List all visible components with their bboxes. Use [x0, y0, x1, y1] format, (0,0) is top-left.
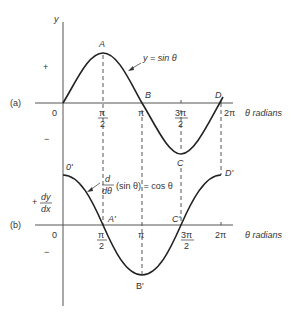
equation-a: y = sin θ — [142, 53, 177, 63]
svg-text:3π: 3π — [175, 108, 186, 118]
svg-text:dx: dx — [41, 204, 51, 214]
panel-b-label: (b) — [10, 220, 21, 230]
svg-text:2: 2 — [184, 241, 189, 251]
svg-text:2π: 2π — [215, 230, 226, 240]
point-B-prime: B' — [136, 281, 144, 291]
svg-text:2: 2 — [100, 119, 105, 129]
origin-b: 0 — [52, 230, 57, 240]
svg-text:2: 2 — [178, 119, 183, 129]
point-O-prime: 0' — [66, 162, 73, 172]
sine-derivative-diagram: y (a) + − 0 π 2 π 3π 2 2π θ radians A B … — [0, 0, 295, 318]
minus-sign-a: − — [44, 134, 49, 144]
equation-b: (sin θ) = cos θ — [116, 181, 173, 191]
x-axis-label-b: θ radians — [245, 230, 282, 240]
svg-text:dθ: dθ — [102, 186, 112, 196]
svg-text:π: π — [98, 230, 104, 240]
point-B: B — [145, 90, 151, 100]
minus-sign-b: − — [44, 247, 49, 257]
origin-a: 0 — [52, 108, 57, 118]
svg-text:π: π — [99, 108, 105, 118]
y-axis-label: y — [53, 14, 59, 24]
svg-text:π: π — [138, 108, 144, 118]
point-C: C — [177, 158, 184, 168]
svg-text:3π: 3π — [181, 230, 192, 240]
point-D-prime: D' — [225, 168, 233, 178]
point-A-prime: A' — [107, 214, 116, 224]
plus-sign-a: + — [43, 62, 48, 72]
svg-text:π: π — [138, 230, 144, 240]
svg-text:2: 2 — [99, 241, 104, 251]
svg-text:d: d — [105, 174, 111, 184]
point-A: A — [98, 39, 105, 49]
plus-sign-b: + — [32, 197, 37, 207]
point-C-prime: C' — [172, 214, 180, 224]
panel-a-label: (a) — [10, 98, 21, 108]
svg-text:2π: 2π — [224, 108, 235, 118]
x-axis-label-a: θ radians — [245, 108, 282, 118]
svg-text:dy: dy — [41, 192, 51, 202]
point-D: D — [215, 90, 222, 100]
